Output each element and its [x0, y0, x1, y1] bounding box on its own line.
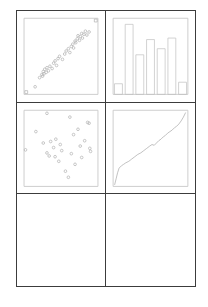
scatter-point-mark: [24, 148, 27, 151]
scatter-point-mark: [35, 130, 38, 133]
panel-histogram[interactable]: [106, 11, 195, 103]
histogram-bars: [115, 24, 187, 94]
scatter-point-mark: [72, 47, 75, 50]
plot-frame: [113, 18, 188, 94]
scatter-point-mark: [49, 140, 52, 143]
scatter-point-mark: [57, 160, 60, 163]
panel-grid: [16, 10, 196, 287]
scatter-point-mark: [80, 156, 83, 159]
scatter-point-mark: [38, 76, 41, 79]
scatter-square-mark: [25, 91, 28, 94]
histogram-bar: [125, 24, 133, 94]
scatter-point-mark: [84, 30, 87, 33]
scatter-marks: [24, 112, 92, 179]
panel-line-cumulative[interactable]: [106, 103, 195, 195]
scatter-point-mark: [67, 176, 70, 179]
scatter-square-mark: [94, 19, 97, 22]
scatter-point-mark: [46, 151, 49, 154]
scatter-point-mark: [59, 143, 62, 146]
scatter-point-mark: [74, 163, 77, 166]
panel-empty-left[interactable]: [17, 194, 106, 286]
histogram-bar: [179, 82, 187, 94]
scatter-point-mark: [49, 65, 52, 68]
scatter-point-mark: [46, 66, 49, 69]
scatter-point-mark: [89, 150, 92, 153]
line-cumulative-plot: [106, 103, 195, 194]
scatter-random-plot: [17, 103, 105, 194]
scatter-point-mark: [83, 139, 86, 142]
scatter-point-mark: [67, 47, 70, 50]
histogram-bar: [136, 55, 144, 95]
scatter-point-mark: [64, 169, 67, 172]
line-series: [115, 112, 186, 184]
scatter-correlated-plot: [17, 11, 105, 102]
histogram-bar: [157, 49, 165, 95]
scatter-point-mark: [42, 141, 45, 144]
scatter-point-mark: [58, 55, 61, 58]
scatter-point-mark: [89, 147, 92, 150]
scatter-point-mark: [78, 39, 81, 42]
scatter-point-mark: [54, 60, 57, 63]
scatter-marks: [25, 19, 97, 93]
scatter-point-mark: [72, 43, 75, 46]
scatter-point-mark: [81, 37, 84, 40]
scatter-point-mark: [54, 155, 57, 158]
scatter-point-mark: [77, 128, 80, 131]
scatter-point-mark: [70, 152, 73, 155]
panel-empty-right[interactable]: [106, 194, 195, 286]
scatter-point-mark: [55, 64, 58, 67]
scatter-point-mark: [34, 85, 37, 88]
histogram-bar: [115, 84, 123, 95]
scatter-point-mark: [69, 51, 72, 54]
scatter-point-mark: [86, 34, 89, 37]
scatter-point-mark: [61, 58, 64, 61]
scatter-point-mark: [72, 133, 75, 136]
histogram-plot: [106, 11, 195, 102]
scatter-point-mark: [47, 69, 50, 72]
scatter-point-mark: [52, 146, 55, 149]
histogram-bar: [147, 40, 155, 95]
scatter-point-mark: [46, 112, 49, 115]
scatter-point-mark: [55, 137, 58, 140]
plot-frame: [113, 110, 188, 186]
panel-scatter-correlated[interactable]: [17, 11, 106, 103]
scatter-point-mark: [69, 115, 72, 118]
scatter-point-mark: [51, 67, 54, 70]
panel-scatter-random[interactable]: [17, 103, 106, 195]
scatter-point-mark: [79, 144, 82, 147]
histogram-bar: [168, 38, 176, 94]
scatter-point-mark: [48, 154, 51, 157]
figure-page: [0, 0, 208, 307]
scatter-point-mark: [88, 31, 91, 34]
scatter-point-mark: [63, 53, 66, 56]
scatter-point-mark: [65, 50, 68, 53]
scatter-point-mark: [60, 149, 63, 152]
